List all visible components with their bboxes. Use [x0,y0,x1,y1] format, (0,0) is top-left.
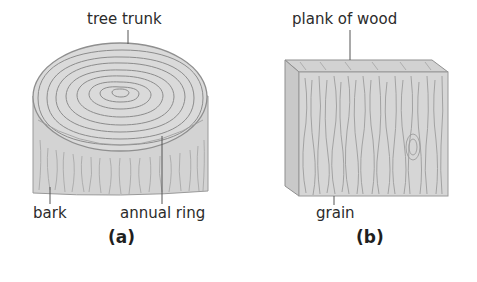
caption-a: (a) [108,227,135,247]
tree-trunk-illustration [33,30,208,204]
label-tree-trunk: tree trunk [87,10,162,28]
label-plank-of-wood: plank of wood [292,10,397,28]
caption-b: (b) [356,227,384,247]
label-grain: grain [316,204,355,222]
label-annual-ring: annual ring [120,204,205,222]
label-bark: bark [33,204,67,222]
wood-diagram [0,0,477,282]
plank-illustration [285,30,448,205]
